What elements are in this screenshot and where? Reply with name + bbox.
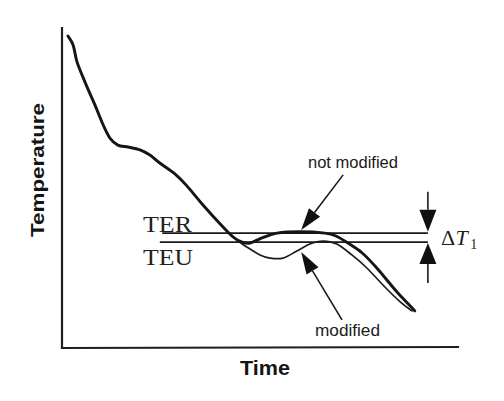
teu-label: TEU bbox=[143, 244, 193, 270]
not-modified-arrow-icon bbox=[301, 175, 343, 230]
y-axis-label: Temperature bbox=[28, 103, 48, 237]
delta-symbol: Δ bbox=[441, 225, 455, 250]
delta-t-bottom-arrow-icon bbox=[419, 243, 436, 283]
x-axis bbox=[62, 347, 458, 348]
delta-variable: T bbox=[455, 225, 469, 250]
not-modified-curve bbox=[68, 36, 415, 311]
delta-t-top-arrow-icon bbox=[419, 192, 436, 232]
not-modified-callout-label: not modified bbox=[308, 154, 398, 171]
delta-t1-label: Δ T 1 bbox=[441, 225, 477, 252]
delta-subscript: 1 bbox=[470, 237, 477, 252]
modified-callout-label: modified bbox=[315, 322, 380, 339]
modified-curve bbox=[68, 36, 412, 311]
ter-label: TER bbox=[143, 211, 192, 237]
modified-arrow-icon bbox=[301, 252, 342, 320]
cooling-curve-figure: Temperature Time TER TEU not modified mo… bbox=[0, 0, 504, 401]
x-axis-label: Time bbox=[240, 357, 290, 379]
